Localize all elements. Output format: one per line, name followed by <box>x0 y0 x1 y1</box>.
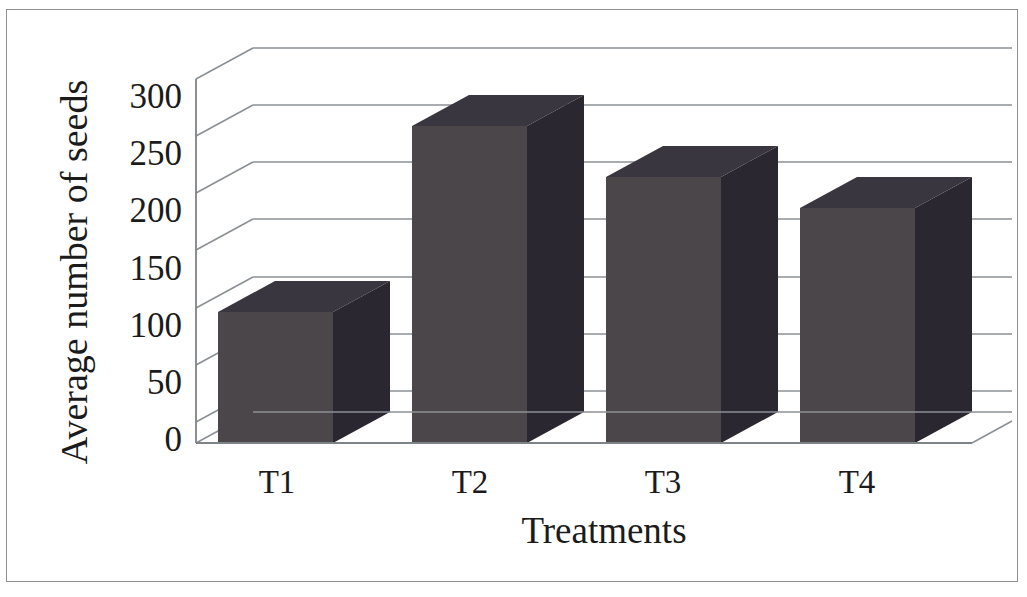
bar-T2-side <box>527 95 584 443</box>
bar-T4-side <box>915 177 972 443</box>
depth-line-250 <box>196 162 253 193</box>
x-tick-label-T3: T3 <box>645 464 682 500</box>
bar-T4-front <box>800 208 915 443</box>
x-axis-title: Treatments <box>521 510 686 551</box>
y-tick-label-0: 0 <box>165 420 183 459</box>
chart-figure: 0 50 100 150 200 250 300 T1 T2 T3 T4 Tre… <box>0 0 1027 597</box>
y-tick-label-50: 50 <box>147 363 182 402</box>
y-tick-label-300: 300 <box>130 77 183 116</box>
y-axis-title: Average number of seeds <box>53 80 95 464</box>
x-axis-tick-labels: T1 T2 T3 T4 <box>259 464 876 500</box>
floor-right-depth-edge <box>972 421 1012 443</box>
x-tick-label-T2: T2 <box>452 464 489 500</box>
bar-T1[interactable] <box>218 281 390 443</box>
depth-line-200 <box>196 219 253 250</box>
bar-chart-svg: 0 50 100 150 200 250 300 T1 T2 T3 T4 Tre… <box>0 0 1027 597</box>
bar-T2[interactable] <box>412 95 584 443</box>
bar-T2-front <box>412 126 527 443</box>
bar-T3[interactable] <box>606 146 778 443</box>
depth-line-300 <box>196 105 253 136</box>
bar-T4[interactable] <box>800 177 972 443</box>
bar-T1-front <box>218 312 333 443</box>
depth-line-350 <box>196 48 253 79</box>
x-tick-label-T1: T1 <box>259 464 296 500</box>
y-tick-label-200: 200 <box>130 191 183 230</box>
y-tick-label-250: 250 <box>130 134 183 173</box>
y-tick-label-150: 150 <box>130 249 183 288</box>
bar-T3-front <box>606 177 721 443</box>
y-tick-label-100: 100 <box>130 306 183 345</box>
plot-area: 0 50 100 150 200 250 300 T1 T2 T3 T4 Tre… <box>0 0 1027 597</box>
y-axis-tick-labels: 0 50 100 150 200 250 300 <box>130 77 183 459</box>
x-tick-label-T4: T4 <box>839 464 876 500</box>
bar-T3-side <box>721 146 778 443</box>
